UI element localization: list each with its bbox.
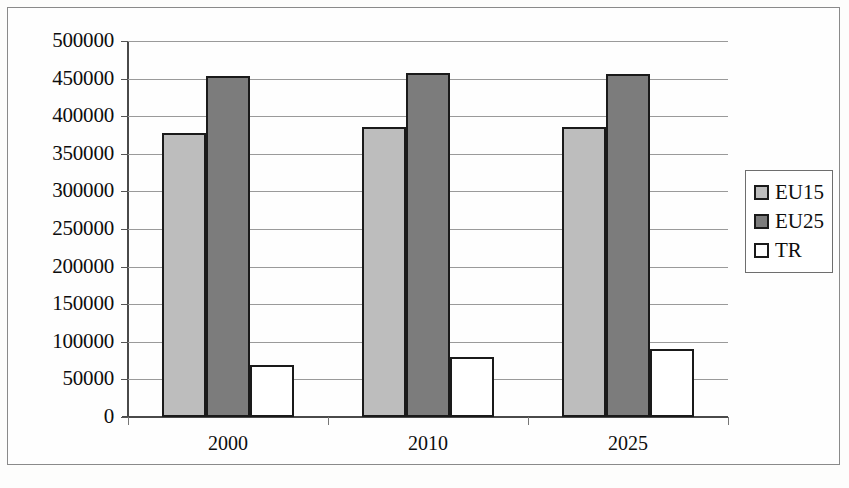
bar-eu15-2025 bbox=[562, 127, 606, 417]
x-tick-mark bbox=[528, 417, 529, 425]
x-tick-label-2000: 2000 bbox=[128, 432, 328, 455]
bar-chart: 5000004500004000003500003000002500002000… bbox=[0, 0, 849, 488]
bar-eu15-2000 bbox=[162, 133, 206, 417]
x-tick-label-2025: 2025 bbox=[528, 432, 728, 455]
y-tick-label: 300000 bbox=[52, 180, 114, 201]
legend-swatch-eu15-icon bbox=[754, 185, 769, 200]
bar-tr-2025 bbox=[650, 349, 694, 417]
y-tick-label: 50000 bbox=[62, 368, 114, 389]
x-tick-mark bbox=[328, 417, 329, 425]
y-tick-label: 150000 bbox=[52, 293, 114, 314]
legend-item-tr: TR bbox=[754, 236, 826, 265]
y-tick-label: 350000 bbox=[52, 143, 114, 164]
y-tick-mark bbox=[121, 229, 128, 230]
chart-legend: EU15EU25TR bbox=[745, 170, 833, 273]
y-tick-mark bbox=[121, 379, 128, 380]
y-tick-label: 0 bbox=[104, 406, 114, 427]
x-tick-label-2010: 2010 bbox=[328, 432, 528, 455]
y-tick-label: 250000 bbox=[52, 218, 114, 239]
x-tick-mark bbox=[128, 417, 129, 425]
y-tick-mark bbox=[121, 417, 128, 418]
y-tick-mark bbox=[121, 79, 128, 80]
y-tick-label: 450000 bbox=[52, 68, 114, 89]
legend-label-eu25: EU25 bbox=[775, 211, 824, 232]
y-tick-mark bbox=[121, 154, 128, 155]
y-tick-label: 200000 bbox=[52, 256, 114, 277]
bar-eu25-2000 bbox=[206, 76, 250, 417]
bar-eu15-2010 bbox=[362, 127, 406, 417]
gridline bbox=[128, 41, 728, 42]
bar-tr-2010 bbox=[450, 357, 494, 417]
legend-item-eu15: EU15 bbox=[754, 178, 826, 207]
y-tick-mark bbox=[121, 116, 128, 117]
y-tick-mark bbox=[121, 267, 128, 268]
y-tick-mark bbox=[121, 342, 128, 343]
legend-label-tr: TR bbox=[775, 240, 802, 261]
bar-eu25-2025 bbox=[606, 74, 650, 417]
y-tick-mark bbox=[121, 191, 128, 192]
bar-tr-2000 bbox=[250, 365, 294, 417]
legend-label-eu15: EU15 bbox=[775, 182, 824, 203]
bar-eu25-2010 bbox=[406, 73, 450, 417]
y-tick-mark bbox=[121, 41, 128, 42]
legend-swatch-tr-icon bbox=[754, 243, 769, 258]
y-tick-label: 500000 bbox=[52, 30, 114, 51]
x-tick-mark bbox=[728, 417, 729, 425]
legend-item-eu25: EU25 bbox=[754, 207, 826, 236]
legend-swatch-eu25-icon bbox=[754, 214, 769, 229]
y-tick-label: 400000 bbox=[52, 105, 114, 126]
y-tick-mark bbox=[121, 304, 128, 305]
plot-area bbox=[128, 41, 728, 417]
y-tick-label: 100000 bbox=[52, 331, 114, 352]
